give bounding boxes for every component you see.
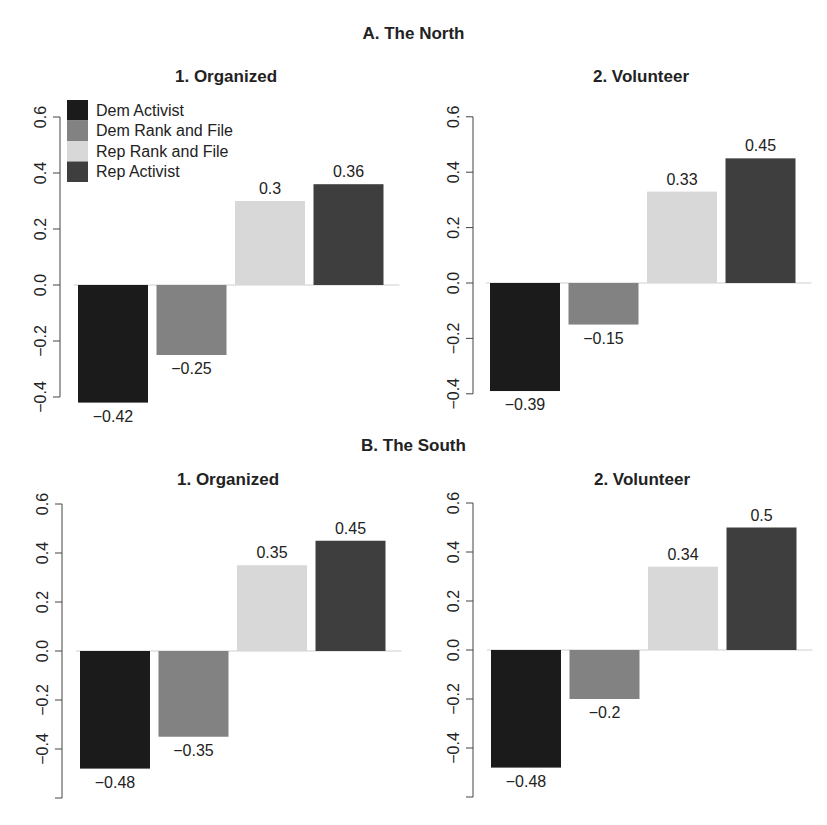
value-label: 0.35 — [256, 544, 287, 561]
panel-title: 1. Organized — [175, 67, 277, 86]
bar-rep-rank-and-file — [648, 567, 718, 650]
bar-dem-rank-and-file — [159, 651, 229, 737]
bar-dem-rank-and-file — [569, 283, 639, 325]
value-label: −0.48 — [506, 773, 547, 790]
y-tick-label: −0.2 — [445, 323, 462, 355]
y-tick-label: 0.6 — [445, 492, 462, 514]
bar-dem-activist — [80, 651, 150, 769]
y-tick-label: −0.4 — [445, 732, 462, 764]
bar-dem-activist — [490, 283, 560, 391]
y-tick-label: 0.2 — [445, 216, 462, 238]
y-tick-label: 0.2 — [445, 590, 462, 612]
bar-dem-rank-and-file — [157, 285, 227, 355]
value-label: 0.33 — [666, 171, 697, 188]
y-tick-label: 0.0 — [34, 640, 51, 662]
panel-title: 2. Volunteer — [594, 470, 690, 489]
value-label: 0.34 — [667, 546, 698, 563]
y-tick-label: −0.2 — [445, 683, 462, 715]
value-label: −0.42 — [93, 408, 134, 425]
y-tick-label: 0.0 — [32, 274, 49, 296]
y-tick-label: 0.2 — [32, 218, 49, 240]
y-tick-label: 0.6 — [34, 493, 51, 515]
bar-rep-activist — [727, 528, 797, 651]
bar-rep-activist — [314, 184, 384, 285]
y-tick-label: 0.4 — [445, 541, 462, 563]
y-tick-label: 0.4 — [34, 542, 51, 564]
bar-rep-activist — [316, 541, 386, 651]
y-tick-label: 0.4 — [445, 161, 462, 183]
panel-title: 2. Volunteer — [593, 67, 689, 86]
legend-label: Dem Activist — [96, 102, 185, 119]
y-tick-label: −0.2 — [32, 325, 49, 357]
value-label: −0.39 — [505, 396, 546, 413]
value-label: 0.5 — [750, 507, 772, 524]
y-tick-label: 0.0 — [445, 639, 462, 661]
value-label: 0.45 — [745, 137, 776, 154]
value-label: −0.15 — [583, 330, 624, 347]
legend-swatch — [67, 121, 88, 142]
chart-canvas: 1. Organized0.60.40.20.0−0.2−0.4−0.42−0.… — [0, 0, 827, 825]
bar-dem-rank-and-file — [570, 650, 640, 699]
y-tick-label: 0.6 — [32, 106, 49, 128]
bar-dem-activist — [491, 650, 561, 768]
y-tick-label: −0.4 — [445, 378, 462, 410]
panel-title: 1. Organized — [177, 470, 279, 489]
y-tick-label: 0.0 — [445, 272, 462, 294]
y-tick-label: −0.4 — [32, 381, 49, 413]
legend-label: Rep Rank and File — [96, 143, 229, 160]
value-label: 0.3 — [259, 180, 281, 197]
value-label: −0.35 — [173, 742, 214, 759]
y-tick-label: 0.6 — [445, 106, 462, 128]
bar-rep-rank-and-file — [647, 192, 717, 283]
bar-rep-rank-and-file — [237, 565, 307, 651]
bar-rep-activist — [726, 158, 796, 283]
legend-label: Rep Activist — [96, 163, 180, 180]
bar-rep-rank-and-file — [235, 201, 305, 285]
y-tick-label: −0.4 — [34, 733, 51, 765]
value-label: 0.36 — [333, 163, 364, 180]
value-label: 0.45 — [335, 520, 366, 537]
y-tick-label: −0.2 — [34, 684, 51, 716]
legend-label: Dem Rank and File — [96, 122, 233, 139]
y-tick-label: 0.2 — [34, 591, 51, 613]
value-label: −0.48 — [95, 774, 136, 791]
value-label: −0.2 — [589, 704, 621, 721]
legend-swatch — [67, 100, 88, 121]
value-label: −0.25 — [171, 360, 212, 377]
y-tick-label: 0.4 — [32, 162, 49, 184]
legend-swatch — [67, 162, 88, 183]
legend-swatch — [67, 141, 88, 162]
bar-dem-activist — [78, 285, 148, 403]
